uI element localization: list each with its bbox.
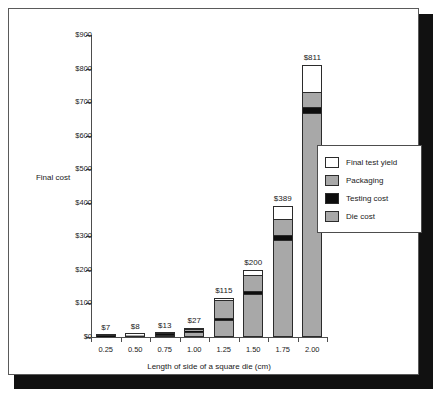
- x-axis-title: Length of side of a square die (cm): [69, 362, 349, 371]
- legend-item: Packaging: [325, 171, 415, 189]
- y-axis-title: Final cost: [31, 172, 75, 183]
- bar-value-label: $115: [201, 287, 247, 295]
- legend-item-label: Die cost: [346, 212, 375, 221]
- bar: [155, 333, 175, 337]
- y-axis-tick-label: $400: [58, 199, 92, 207]
- bar-segment-final-test-yield: [302, 65, 322, 92]
- x-axis-tick-label: 2.00: [292, 346, 332, 354]
- y-axis-tick-label: $0: [58, 333, 92, 341]
- legend-swatch-icon: [325, 211, 339, 222]
- bar-segment-packaging: [214, 300, 234, 318]
- bar-segment-final-test-yield: [214, 298, 234, 299]
- bar-segment-packaging: [96, 335, 116, 336]
- bar-segment-final-test-yield: [96, 334, 116, 335]
- bar: [96, 335, 116, 337]
- bar-segment-final-test-yield: [243, 270, 263, 275]
- legend-swatch-icon: [325, 175, 339, 186]
- bar: [243, 270, 263, 337]
- x-axis-tick: [239, 337, 240, 342]
- bar-value-label: $389: [260, 195, 306, 203]
- x-axis-tick: [268, 337, 269, 342]
- bar-segment-die-cost: [155, 335, 175, 337]
- legend-item: Die cost: [325, 207, 415, 225]
- x-axis-tick: [298, 337, 299, 342]
- bar-value-label: $811: [289, 54, 335, 62]
- y-axis-tick-label: $700: [58, 98, 92, 106]
- y-axis-line: [91, 35, 92, 338]
- bar-segment-die-cost: [184, 332, 204, 337]
- bar-segment-testing-cost: [214, 318, 234, 320]
- bar: [184, 328, 204, 337]
- bar-segment-packaging: [302, 92, 322, 107]
- y-axis-tick-label: $900: [58, 31, 92, 39]
- bar-segment-final-test-yield: [155, 332, 175, 333]
- bar-segment-packaging: [125, 334, 145, 335]
- legend-item-label: Packaging: [346, 176, 383, 185]
- bar-segment-testing-cost: [243, 291, 263, 294]
- x-axis-tick: [150, 337, 151, 342]
- bar: [214, 298, 234, 337]
- legend-swatch-icon: [325, 157, 339, 168]
- y-axis-tick-label: $300: [58, 232, 92, 240]
- bar-segment-testing-cost: [184, 330, 204, 331]
- chart-legend: Final test yieldPackagingTesting costDie…: [317, 145, 422, 233]
- x-axis-tick: [327, 337, 328, 342]
- figure-frame: $0$100$200$300$400$500$600$700$800$900 $…: [8, 8, 419, 375]
- bar-segment-final-test-yield: [273, 206, 293, 218]
- bar-segment-testing-cost: [302, 107, 322, 113]
- bar-segment-final-test-yield: [125, 333, 145, 334]
- bar: [125, 334, 145, 337]
- chart-plot-area: $0$100$200$300$400$500$600$700$800$900 $…: [9, 9, 418, 374]
- bar-segment-die-cost: [243, 294, 263, 337]
- x-axis-tick: [209, 337, 210, 342]
- legend-item: Testing cost: [325, 189, 415, 207]
- x-axis-tick: [121, 337, 122, 342]
- bar-segment-packaging: [184, 329, 204, 330]
- bar-segment-packaging: [243, 275, 263, 290]
- legend-swatch-icon: [325, 193, 339, 204]
- x-axis-tick: [91, 337, 92, 342]
- bar-segment-die-cost: [214, 320, 234, 337]
- bar-segment-final-test-yield: [184, 328, 204, 329]
- bar: [273, 206, 293, 337]
- legend-item: Final test yield: [325, 153, 415, 171]
- bar-value-label: $27: [171, 317, 217, 325]
- y-axis-tick-label: $600: [58, 132, 92, 140]
- y-axis-tick-label: $800: [58, 65, 92, 73]
- bar-segment-testing-cost: [273, 235, 293, 240]
- x-axis-tick: [180, 337, 181, 342]
- bar-value-label: $200: [230, 259, 276, 267]
- bar-segment-die-cost: [273, 240, 293, 337]
- legend-item-label: Testing cost: [346, 194, 388, 203]
- y-axis-tick-label: $200: [58, 266, 92, 274]
- legend-item-label: Final test yield: [346, 158, 397, 167]
- bar-segment-packaging: [273, 219, 293, 235]
- y-axis-tick-label: $100: [58, 299, 92, 307]
